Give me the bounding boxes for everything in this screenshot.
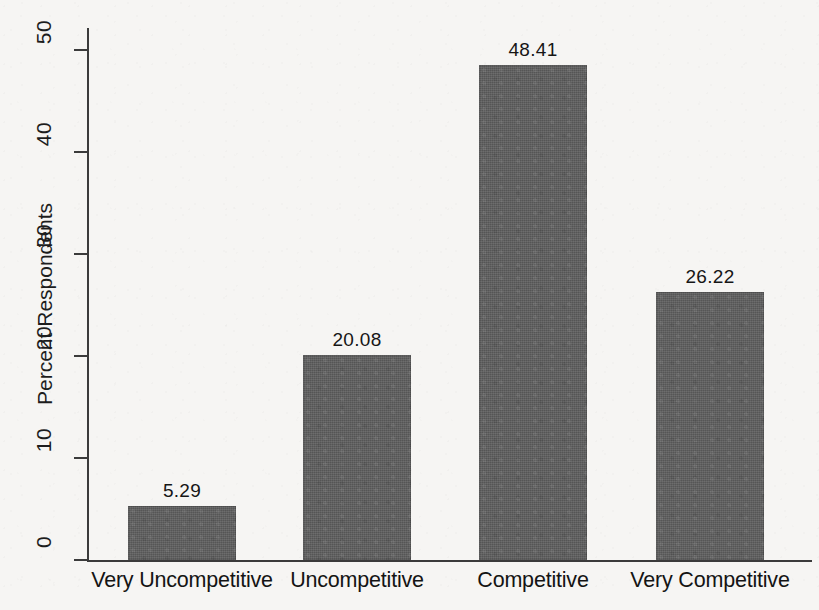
y-tick-mark-30 (74, 253, 88, 255)
bar-value-competitive: 48.41 (463, 39, 603, 61)
bar-value-very-uncompetitive: 5.29 (112, 480, 252, 502)
y-tick-mark-20 (74, 355, 88, 357)
bar-very-uncompetitive (128, 506, 236, 560)
x-axis-line (87, 560, 812, 562)
y-axis-title: Percent Respondents (33, 154, 57, 454)
y-tick-mark-40 (74, 151, 88, 153)
y-tick-mark-50 (74, 49, 88, 51)
bar-very-competitive (656, 292, 764, 560)
bar-chart-figure: 50 40 30 20 10 0 Percent Respondents 5.2… (0, 0, 819, 610)
bar-uncompetitive (303, 355, 411, 560)
y-tick-mark-0 (74, 559, 88, 561)
y-tick-label-0: 0 (32, 512, 56, 572)
y-tick-mark-10 (74, 457, 88, 459)
bar-value-uncompetitive: 20.08 (287, 329, 427, 351)
y-axis-line (87, 28, 89, 562)
bar-competitive (479, 65, 587, 560)
x-tick-label-very-competitive: Very Competitive (595, 568, 819, 593)
y-tick-label-50: 50 (32, 2, 56, 62)
bar-value-very-competitive: 26.22 (640, 266, 780, 288)
